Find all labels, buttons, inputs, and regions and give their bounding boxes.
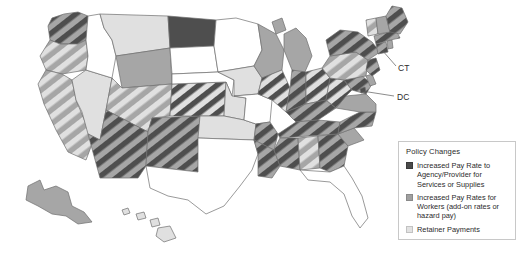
legend-item-pay-rates-workers: Increased Pay Rates for Workers (add-on … <box>405 193 510 221</box>
state-OR <box>40 40 88 74</box>
state-NM <box>146 116 200 172</box>
legend-swatch-pay-rates-workers <box>406 194 413 201</box>
legend-panel: Policy Changes Increased Pay Rate to Age… <box>398 141 516 240</box>
state-FL <box>300 166 368 228</box>
state-ME <box>386 6 408 34</box>
legend-label-pay-rates-workers: Increased Pay Rates for Workers (add-on … <box>417 193 510 221</box>
state-NJ <box>366 58 380 76</box>
map-figure: CT DC Policy Changes Increased Pay Rate … <box>0 0 530 257</box>
state-ND <box>168 16 216 48</box>
states-layer <box>26 6 408 242</box>
state-WA <box>48 12 90 44</box>
state-AL <box>298 136 320 170</box>
state-SD <box>170 46 218 74</box>
legend-title: Policy Changes <box>406 147 510 156</box>
state-CO <box>170 82 226 116</box>
state-HI <box>122 208 176 242</box>
ct-leader-line <box>382 50 396 66</box>
state-RI <box>387 40 393 49</box>
legend-item-retainer-payments: Retainer Payments <box>405 225 510 234</box>
legend-swatch-retainer-payments <box>406 226 413 233</box>
legend-label-retainer-payments: Retainer Payments <box>417 225 480 234</box>
legend-item-pay-rate-agency: Increased Pay Rate to Agency/Provider fo… <box>405 161 510 189</box>
state-AK <box>26 180 92 224</box>
legend-swatch-pay-rate-agency <box>406 162 413 169</box>
state-NC <box>338 112 376 134</box>
legend-label-pay-rate-agency: Increased Pay Rate to Agency/Provider fo… <box>417 161 510 189</box>
state-PA <box>322 52 368 80</box>
